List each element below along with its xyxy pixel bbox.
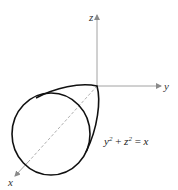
eq-plus: + bbox=[112, 135, 124, 147]
paraboloid-diagram: z y x y2 + z2 = x bbox=[0, 0, 178, 190]
surface-equation: y2 + z2 = x bbox=[103, 135, 149, 147]
eq-equals: = bbox=[132, 135, 144, 147]
x-axis-label: x bbox=[7, 176, 13, 188]
y-axis-label: y bbox=[163, 80, 169, 92]
eq-x: x bbox=[143, 135, 149, 147]
cross-section-circle bbox=[12, 93, 90, 175]
z-axis-label: z bbox=[88, 11, 94, 23]
